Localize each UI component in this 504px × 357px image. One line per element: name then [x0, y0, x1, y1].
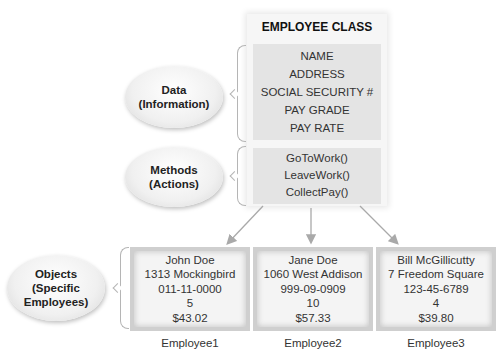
arrow-employee3	[360, 206, 397, 243]
employee1-ssn: 011-11-0000	[158, 282, 222, 297]
employee2-address: 1060 West Addison	[264, 267, 363, 282]
employee1-object: John Doe 1313 Mockingbird 011-11-0000 5 …	[130, 247, 250, 331]
employee1-name: John Doe	[165, 253, 214, 268]
employee1-address: 1313 Mockingbird	[145, 267, 236, 282]
employee2-pay-rate: $57.33	[295, 311, 330, 326]
employee2-pay-grade: 10	[307, 296, 320, 311]
employee3-ssn: 123-45-6789	[403, 282, 468, 297]
employee3-label: Employee3	[376, 337, 496, 349]
employee3-name: Bill McGillicutty	[397, 253, 474, 268]
employee2-object: Jane Doe 1060 West Addison 999-09-0909 1…	[253, 247, 373, 331]
employee3-pay-grade: 4	[433, 296, 439, 311]
employee2-label: Employee2	[253, 337, 373, 349]
employee2-name: Jane Doe	[288, 253, 337, 268]
employee3-address: 7 Freedom Square	[388, 267, 484, 282]
employee1-label: Employee1	[130, 337, 250, 349]
employee3-object: Bill McGillicutty 7 Freedom Square 123-4…	[376, 247, 496, 331]
employee2-ssn: 999-09-0909	[280, 282, 345, 297]
arrow-employee1	[228, 206, 263, 243]
employee1-pay-grade: 5	[187, 296, 193, 311]
employee3-pay-rate: $39.80	[418, 311, 453, 326]
employee1-pay-rate: $43.02	[172, 311, 207, 326]
